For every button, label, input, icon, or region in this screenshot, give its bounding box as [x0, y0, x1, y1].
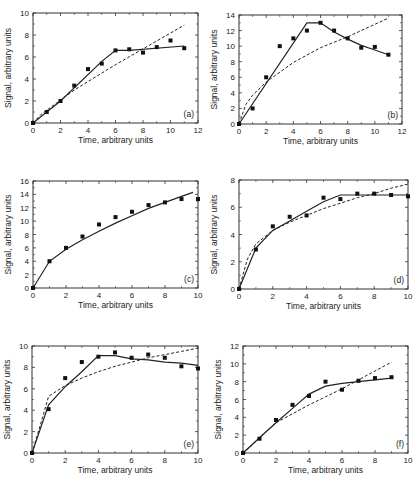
x-tick-label: 0: [30, 456, 35, 465]
x-tick-label: 8: [345, 127, 350, 136]
x-tick-label: 4: [304, 292, 309, 301]
x-tick-label: 8: [373, 456, 378, 465]
x-tick-label: 6: [340, 456, 345, 465]
data-point-marker: [96, 355, 100, 359]
x-tick-label: 8: [141, 126, 146, 135]
x-tick-label: 8: [163, 291, 168, 300]
data-point-marker: [196, 197, 200, 201]
data-point-marker: [357, 379, 361, 383]
data-point-marker: [359, 46, 363, 50]
y-tick-label: 2: [231, 258, 236, 267]
data-point-marker: [130, 210, 134, 214]
data-point-marker: [251, 106, 255, 110]
y-tick-label: 6: [235, 396, 240, 405]
y-tick-label: 10: [226, 42, 235, 51]
solid-fit-line: [239, 23, 388, 124]
x-tick-label: 10: [166, 126, 175, 135]
y-axis-label: Signal, arbitrary units: [209, 195, 219, 275]
y-tick-label: 6: [25, 53, 30, 62]
data-point-marker: [30, 451, 34, 455]
x-tick-label: 4: [96, 456, 101, 465]
y-tick-label: 8: [231, 176, 236, 185]
chart-panel-d: 024681002468Time, arbitrary unitsSignal,…: [209, 176, 413, 311]
data-point-marker: [390, 375, 394, 379]
data-point-marker: [182, 46, 186, 50]
y-tick-label: 12: [226, 27, 235, 36]
data-point-marker: [146, 353, 150, 357]
data-point-marker: [59, 99, 63, 103]
dashed-fit-line: [243, 362, 392, 453]
panel-label: (c): [184, 274, 194, 284]
figure-canvas: 0246810120246810Time, arbitrary unitsSig…: [0, 0, 420, 484]
data-point-marker: [373, 376, 377, 380]
y-tick-label: 2: [25, 271, 30, 280]
data-point-marker: [319, 21, 323, 25]
data-point-marker: [47, 407, 51, 411]
y-tick-label: 10: [20, 217, 29, 226]
panel-label: (f): [396, 439, 404, 449]
x-axis-label: Time, arbitrary units: [288, 465, 363, 475]
x-tick-label: 10: [370, 127, 379, 136]
x-tick-label: 2: [274, 456, 279, 465]
y-tick-label: 8: [24, 363, 29, 372]
y-tick-label: 12: [230, 342, 239, 351]
y-axis-label: Signal, arbitrary units: [3, 195, 13, 275]
y-tick-label: 10: [19, 342, 28, 351]
x-tick-label: 2: [64, 291, 69, 300]
y-tick-label: 8: [25, 31, 30, 40]
x-tick-label: 2: [264, 127, 269, 136]
y-tick-label: 4: [24, 406, 29, 415]
data-point-marker: [100, 62, 104, 66]
panel-label: (a): [184, 109, 195, 119]
x-tick-label: 6: [318, 127, 323, 136]
plot-frame: [33, 181, 198, 288]
x-tick-label: 4: [291, 127, 296, 136]
data-point-marker: [147, 203, 151, 207]
chart-panel-c: 02468100246810121416Time, arbitrary unit…: [3, 177, 203, 310]
data-point-marker: [305, 29, 309, 33]
data-point-marker: [278, 44, 282, 48]
y-tick-label: 4: [235, 413, 240, 422]
y-tick-label: 0: [25, 284, 30, 293]
data-point-marker: [127, 47, 131, 51]
x-tick-label: 0: [237, 127, 242, 136]
data-point-marker: [291, 36, 295, 40]
dashed-fit-line: [239, 184, 408, 289]
data-point-marker: [322, 196, 326, 200]
x-tick-label: 2: [63, 456, 68, 465]
y-tick-label: 14: [20, 190, 29, 199]
data-point-marker: [141, 51, 145, 55]
y-axis-label: Signal, arbitrary units: [209, 30, 219, 110]
data-point-marker: [291, 403, 295, 407]
data-point-marker: [372, 192, 376, 196]
y-tick-label: 0: [235, 449, 240, 458]
data-point-marker: [64, 246, 68, 250]
y-tick-label: 12: [20, 204, 29, 213]
data-point-marker: [386, 53, 390, 57]
plot-frame: [239, 15, 402, 124]
panel-label: (e): [184, 439, 195, 449]
plot-frame: [33, 13, 198, 123]
x-tick-label: 0: [31, 291, 36, 300]
x-tick-label: 2: [58, 126, 63, 135]
data-point-marker: [288, 215, 292, 219]
x-tick-label: 2: [271, 292, 276, 301]
data-point-marker: [305, 213, 309, 217]
chart-panel-a: 0246810120246810Time, arbitrary unitsSig…: [3, 9, 203, 145]
x-tick-label: 10: [194, 456, 203, 465]
y-tick-label: 8: [25, 231, 30, 240]
x-axis-label: Time, arbitrary units: [78, 465, 153, 475]
solid-fit-line: [32, 356, 198, 453]
panel-label: (d): [394, 275, 405, 285]
y-tick-label: 6: [231, 203, 236, 212]
y-tick-label: 8: [231, 58, 236, 67]
x-tick-label: 0: [241, 456, 246, 465]
y-tick-label: 2: [25, 97, 30, 106]
y-tick-label: 2: [235, 431, 240, 440]
x-tick-label: 10: [404, 456, 413, 465]
data-point-marker: [254, 247, 258, 251]
x-tick-label: 10: [194, 291, 203, 300]
data-point-marker: [48, 259, 52, 263]
y-axis-label: Signal, arbitrary units: [213, 360, 223, 440]
data-point-marker: [72, 84, 76, 88]
